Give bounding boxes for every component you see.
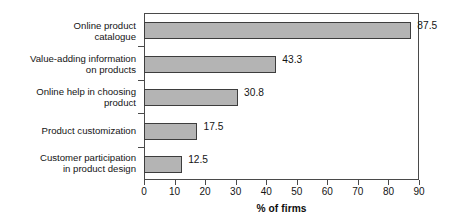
bar-customer-participation [144,156,182,173]
x-axis-tick-label: 30 [221,186,251,198]
x-axis-tick-label: 20 [190,186,220,198]
category-label-line: Online help in choosing [0,86,136,97]
x-axis-tick-label: 80 [373,186,403,198]
category-label-line: in product design [0,163,136,174]
category-label-customer-participation: Customer participation in product design [0,152,136,175]
category-label-online-product-catalogue: Online product catalogue [0,20,136,43]
category-label-line: Product customization [0,125,136,136]
category-axis-labels: Online product catalogue Value-adding in… [0,13,140,180]
x-axis-tick [266,180,267,185]
bar-product-customization [144,123,197,140]
x-axis-tick-label: 60 [312,186,342,198]
value-label-online-help-choosing: 30.8 [244,87,264,99]
x-axis-tick [358,180,359,185]
x-axis-tick-label: 40 [251,186,281,198]
x-axis-tick-label: 0 [129,186,159,198]
x-axis-tick-label: 50 [282,186,312,198]
value-label-customer-participation: 12.5 [188,154,208,166]
bars-layer [144,13,419,180]
x-axis-tick [388,180,389,185]
value-label-online-product-catalogue: 87.5 [417,20,437,32]
x-axis-tick-label: 90 [404,186,434,198]
x-axis-tick [144,180,145,185]
category-label-line: product [0,97,136,108]
category-label-online-help-choosing: Online help in choosing product [0,86,136,109]
bar-value-adding-information [144,56,276,73]
x-axis-tick [327,180,328,185]
x-axis-tick-label: 10 [160,186,190,198]
bar-online-help-choosing [144,89,238,106]
category-label-product-customization: Product customization [0,125,136,136]
x-axis-title: % of firms [144,203,419,214]
x-axis-tick [236,180,237,185]
x-axis-tick [297,180,298,185]
category-label-line: on products [0,64,136,75]
x-axis-tick [419,180,420,185]
x-axis-tick-label: 70 [343,186,373,198]
category-label-line: Value-adding information [0,53,136,64]
category-label-line: Online product [0,20,136,31]
category-label-value-adding-information: Value-adding information on products [0,53,136,76]
category-label-line: Customer participation [0,152,136,163]
bar-online-product-catalogue [144,22,411,39]
x-axis-tick [205,180,206,185]
value-label-value-adding-information: 43.3 [282,54,302,66]
bar-chart: Online product catalogue Value-adding in… [0,0,467,224]
x-axis-tick [175,180,176,185]
category-label-line: catalogue [0,31,136,42]
value-label-product-customization: 17.5 [203,121,223,133]
